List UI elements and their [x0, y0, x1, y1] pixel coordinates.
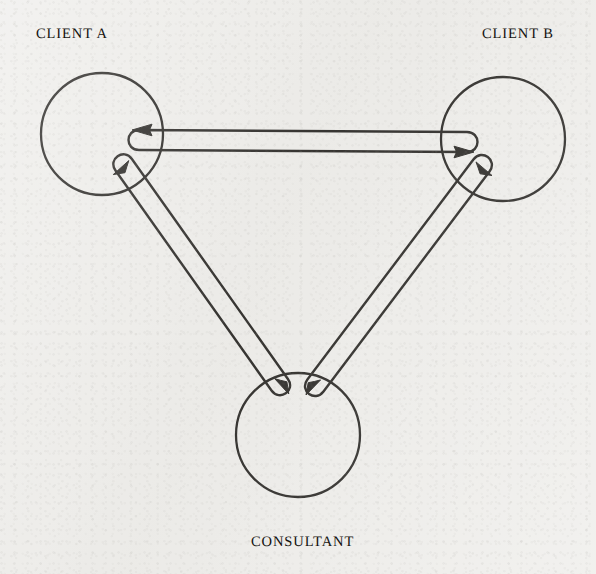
arrowhead-into-consultant-from-b — [306, 380, 321, 395]
arrowhead-into-client-a-from-consultant — [113, 161, 129, 175]
node-label-consultant: CONSULTANT — [251, 534, 354, 551]
edge-b-consultant-path — [305, 155, 492, 396]
edge-client-b-consultant[interactable] — [305, 155, 492, 396]
edge-a-b-path — [129, 130, 478, 152]
node-label-client-a: CLIENT A — [36, 26, 108, 43]
arrowhead-into-consultant-from-a — [275, 379, 289, 394]
node-circles — [41, 73, 565, 497]
triad-diagram-canvas — [0, 0, 596, 574]
edge-a-consultant-path — [113, 154, 290, 395]
arrowhead-into-client-b-from-a — [454, 146, 474, 158]
diagram-page: CLIENT A CLIENT B CONSULTANT — [0, 0, 596, 574]
edge-client-a-consultant[interactable] — [113, 154, 290, 395]
edge-client-a-client-b[interactable] — [129, 130, 478, 152]
node-circle-consultant[interactable] — [236, 373, 360, 497]
arrowhead-into-client-b-from-consultant — [476, 162, 492, 176]
arrowhead-into-client-a-from-b — [132, 124, 152, 136]
node-label-client-b: CLIENT B — [482, 26, 554, 43]
node-circle-client-b[interactable] — [441, 77, 565, 201]
